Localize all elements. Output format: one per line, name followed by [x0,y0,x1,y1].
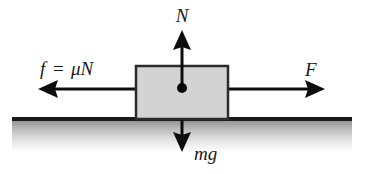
friction-equals-sign: = [53,58,64,79]
applied-force-label: F [304,59,317,80]
free-body-diagram: N f = μN F mg [0,0,365,174]
applied-force-arrow [228,80,325,98]
friction-expression-label: μN [70,58,95,79]
friction-force-label: f [40,58,48,79]
physics-diagram-canvas: N f = μN F mg [0,0,365,174]
friction-force-label-group: f = μN [40,58,95,79]
friction-force-arrow [38,80,136,98]
weight-force-label: mg [194,143,217,164]
center-of-mass-dot [177,83,187,93]
normal-force-label: N [175,5,190,26]
